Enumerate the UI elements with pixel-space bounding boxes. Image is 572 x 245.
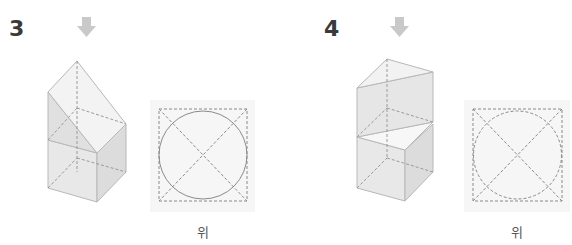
down-arrow-icon <box>390 17 409 37</box>
top-view-4-label: 위 <box>502 222 532 241</box>
top-view-3-label: 위 <box>188 222 218 241</box>
solid-figure-4 <box>357 59 433 201</box>
down-arrow-icon <box>77 17 96 37</box>
diagram-canvas <box>0 0 572 245</box>
top-view-4 <box>464 100 570 212</box>
solid-figure-3 <box>48 61 126 202</box>
top-view-3 <box>150 100 255 212</box>
